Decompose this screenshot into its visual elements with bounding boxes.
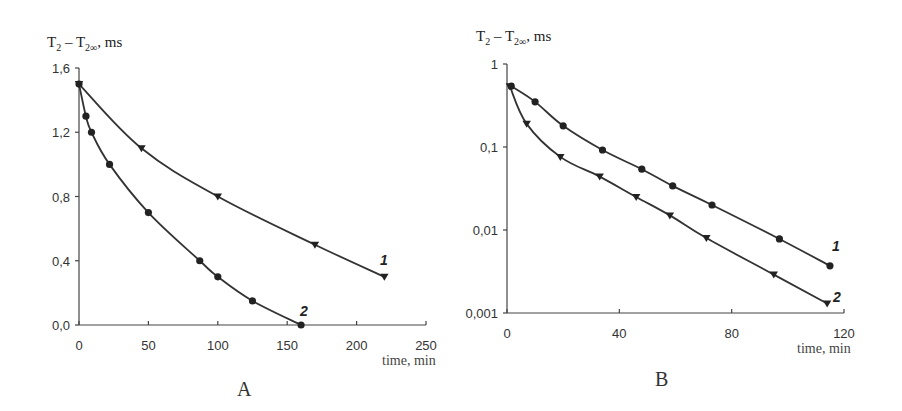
chart-a-xlabel: time, min [382,353,436,368]
series-2-marker [82,113,89,120]
x-tick-label: 120 [833,326,855,341]
series-1-marker [531,98,538,105]
series-1-marker [669,182,676,189]
chart-a-axes [79,68,426,325]
series-2-marker [145,209,152,216]
y-tick-label: 0,001 [465,306,498,321]
series-2-marker [595,174,603,181]
series-1-marker [214,194,222,201]
y-tick-label: 0,4 [52,254,70,269]
chart-b-ylabel: T2 – T2∞, ms [476,28,551,47]
y-tick-label: 0,0 [52,318,70,333]
series-2-marker [666,212,674,219]
series-2-marker [88,129,95,136]
y-tick-label: 0,1 [480,140,498,155]
chart-b-series-2-label: 2 [832,289,841,305]
series-1-marker [826,262,833,269]
series-1-marker [560,122,567,129]
chart-a-series-2-label: 2 [299,303,308,319]
x-tick-label: 40 [612,326,626,341]
chart-a-panel-label: A [237,378,252,400]
chart-a-series-1-label: 1 [380,252,388,268]
chart-b-curves [510,86,830,303]
y-tick-label: 1,2 [52,125,70,140]
y-tick-label: 0,8 [52,190,70,205]
x-tick-label: 0 [503,326,510,341]
chart-a-curves [79,84,384,325]
chart-b-axes [507,64,844,313]
series-2-line [510,86,827,303]
series-2-marker [770,272,778,279]
figure: T2 – T2∞, ms 0501001502002500,00,40,81,2… [0,0,902,411]
series-2-marker [297,321,304,328]
series-2-marker [632,194,640,201]
series-1-marker [380,274,388,281]
x-tick-label: 250 [415,338,437,353]
series-1-marker [638,166,645,173]
chart-b-xlabel: time, min [797,341,851,356]
series-2-marker [214,273,221,280]
y-tick-label: 1 [491,57,498,72]
x-tick-label: 100 [207,338,229,353]
chart-b-markers [506,83,834,308]
x-tick-label: 200 [346,338,368,353]
series-1-marker [599,146,606,153]
chart-b-panel-label: B [655,368,668,390]
series-2-marker [249,297,256,304]
chart-b-series-1-label: 1 [832,238,840,254]
series-1-line [79,84,384,277]
series-2-marker [75,80,82,87]
series-2-marker [823,301,831,308]
chart-a-ticks: 0501001502002500,00,40,81,21,6 [52,61,437,353]
chart-a-ylabel: T2 – T2∞, ms [47,34,122,53]
y-tick-label: 1,6 [52,61,70,76]
series-2-marker [196,257,203,264]
y-tick-label: 0,01 [473,223,498,238]
series-1-marker [708,201,715,208]
x-tick-label: 80 [724,326,738,341]
x-tick-label: 50 [141,338,155,353]
x-tick-label: 0 [75,338,82,353]
x-tick-label: 150 [276,338,298,353]
chart-b: T2 – T2∞, ms 040801200,0010,010,11 1 2 t… [465,28,854,390]
series-1-marker [776,235,783,242]
chart-b-ticks: 040801200,0010,010,11 [465,57,854,341]
series-2-marker [106,161,113,168]
chart-a: T2 – T2∞, ms 0501001502002500,00,40,81,2… [47,34,437,400]
series-2-marker [702,235,710,242]
